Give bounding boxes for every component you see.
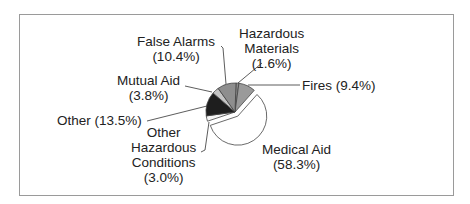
- label-false-alarms: False Alarms (10.4%): [137, 34, 215, 64]
- leader-false-alarms: [221, 46, 226, 84]
- label-text: Hazardous: [131, 140, 196, 155]
- label-other: Other (13.5%): [57, 113, 142, 128]
- leader-other: [147, 106, 207, 121]
- label-value: (58.3%): [262, 157, 331, 172]
- label-text: Medical Aid: [262, 142, 331, 157]
- leader-mutual-aid: [185, 86, 212, 92]
- label-text: Conditions: [131, 155, 196, 170]
- label-value: (3.8%): [117, 88, 180, 103]
- label-text: False Alarms: [137, 34, 215, 49]
- label-hazardous-materials: Hazardous Materials (1.6%): [239, 26, 304, 71]
- pie-chart: [0, 0, 470, 204]
- label-text: Hazardous: [239, 26, 304, 41]
- label-value: (1.6%): [239, 56, 304, 71]
- label-text: Other: [131, 125, 196, 140]
- label-mutual-aid: Mutual Aid (3.8%): [117, 73, 180, 103]
- label-text: Other (13.5%): [57, 113, 142, 128]
- label-medical-aid: Medical Aid (58.3%): [262, 142, 331, 172]
- label-text: Materials: [239, 41, 304, 56]
- label-fires: Fires (9.4%): [302, 78, 376, 93]
- label-value: (3.0%): [131, 170, 196, 185]
- leader-other-hazardous: [201, 122, 209, 152]
- label-text: Mutual Aid: [117, 73, 180, 88]
- label-other-hazardous: Other Hazardous Conditions (3.0%): [131, 125, 196, 185]
- pie-slices: [206, 83, 267, 145]
- label-value: (10.4%): [137, 49, 215, 64]
- label-text: Fires (9.4%): [302, 78, 376, 93]
